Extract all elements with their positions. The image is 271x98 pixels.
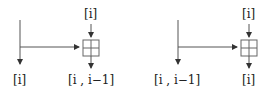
- diagram-right: [i] [i , i−1] [i]: [154, 7, 257, 87]
- bottom-left-label: [i]: [13, 73, 26, 87]
- top-label: [i]: [242, 7, 255, 21]
- diagram-canvas: [i] [i] [i , i−1] [i] [i , i−1] [i]: [0, 0, 271, 98]
- top-label: [i]: [84, 7, 97, 21]
- grid-box: [241, 40, 257, 56]
- bottom-left-label: [i , i−1]: [154, 73, 200, 87]
- bottom-right-label: [i , i−1]: [68, 73, 114, 87]
- bottom-right-label: [i]: [242, 73, 255, 87]
- diagram-left: [i] [i] [i , i−1]: [13, 7, 114, 87]
- grid-box: [83, 40, 99, 56]
